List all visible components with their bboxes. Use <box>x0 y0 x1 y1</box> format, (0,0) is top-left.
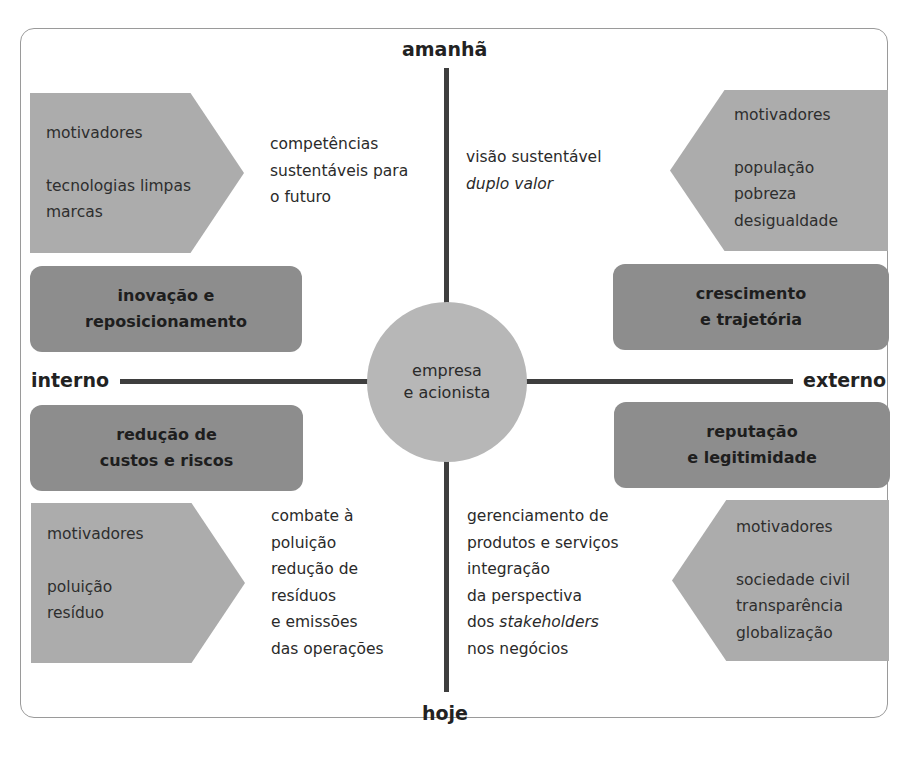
strategy-label-line-2: reposicionamento <box>85 309 247 335</box>
axis-label-hoje: hoje <box>422 702 468 724</box>
outcome-line: nos negócios <box>467 636 619 663</box>
outcome-line: poluição <box>271 530 384 557</box>
center-label-line-2: e acionista <box>404 382 491 404</box>
axis-vertical-top <box>444 68 449 304</box>
strategy-label-line-1: redução de <box>116 422 217 448</box>
center-label-line-1: empresa <box>412 360 482 382</box>
driver-item: sociedade civil <box>736 567 850 594</box>
outcome-bottom-right: gerenciamento de produtos e serviços int… <box>467 503 619 662</box>
driver-item: resíduo <box>47 600 144 627</box>
drivers-title: motivadores <box>734 102 838 129</box>
center-circle: empresa e acionista <box>367 302 527 462</box>
outcome-line: das operações <box>271 636 384 663</box>
axis-horizontal-right <box>526 379 793 384</box>
driver-item: poluição <box>47 574 144 601</box>
outcome-prefix: dos <box>467 613 499 631</box>
drivers-title: motivadores <box>47 521 144 548</box>
driver-item: desigualdade <box>734 208 838 235</box>
outcome-line: produtos e serviços <box>467 530 619 557</box>
strategy-label-line-1: reputação <box>706 419 797 445</box>
strategy-label-line-2: e legitimidade <box>687 445 817 471</box>
strategy-label-line-2: custos e riscos <box>100 448 233 474</box>
outcome-line: resíduos <box>271 583 384 610</box>
outcome-line: gerenciamento de <box>467 503 619 530</box>
strategy-label-line-1: inovação e <box>118 283 215 309</box>
outcome-line-italic: duplo valor <box>466 171 601 198</box>
strategy-label-line-1: crescimento <box>696 281 806 307</box>
outcome-italic-term: stakeholders <box>499 613 599 631</box>
outcome-line: integração <box>467 556 619 583</box>
outcome-line: competências <box>270 131 408 158</box>
driver-item: pobreza <box>734 181 838 208</box>
axis-label-externo: externo <box>803 369 886 391</box>
drivers-title: motivadores <box>46 120 191 147</box>
strategy-box-crescimento: crescimento e trajetória <box>613 264 889 350</box>
outcome-line: sustentáveis para <box>270 158 408 185</box>
strategy-label-line-2: e trajetória <box>700 307 802 333</box>
axis-horizontal-left <box>120 379 368 384</box>
axis-label-amanha: amanhã <box>402 38 487 60</box>
axis-vertical-bottom <box>444 460 449 692</box>
outcome-line: combate à <box>271 503 384 530</box>
driver-item: população <box>734 155 838 182</box>
driver-item: transparência <box>736 593 850 620</box>
strategy-box-reducao: redução de custos e riscos <box>30 405 303 491</box>
outcome-top-left: competências sustentáveis para o futuro <box>270 131 408 211</box>
outcome-top-right: visão sustentável duplo valor <box>466 144 601 197</box>
strategy-box-inovacao: inovação e reposicionamento <box>30 266 302 352</box>
outcome-line: da perspectiva <box>467 583 619 610</box>
strategy-box-reputacao: reputação e legitimidade <box>614 402 890 488</box>
outcome-line: visão sustentável <box>466 144 601 171</box>
outcome-line: e emissões <box>271 609 384 636</box>
outcome-line: o futuro <box>270 184 408 211</box>
drivers-title: motivadores <box>736 514 850 541</box>
driver-item: globalização <box>736 620 850 647</box>
outcome-line: redução de <box>271 556 384 583</box>
outcome-bottom-left: combate à poluição redução de resíduos e… <box>271 503 384 662</box>
driver-item: tecnologias limpas <box>46 173 191 200</box>
outcome-line-mixed: dos stakeholders <box>467 609 619 636</box>
axis-label-interno: interno <box>31 369 109 391</box>
driver-item: marcas <box>46 199 191 226</box>
